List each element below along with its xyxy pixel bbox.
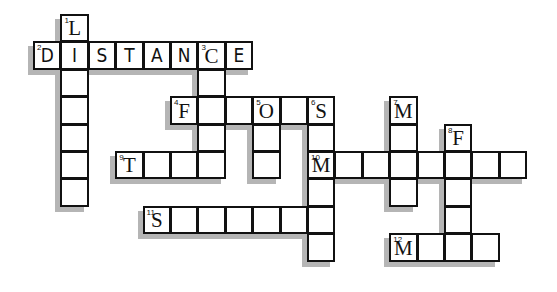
given-letter: T bbox=[117, 154, 141, 176]
given-letter: S bbox=[145, 209, 169, 231]
crossword-cell[interactable] bbox=[362, 151, 390, 179]
crossword-grid: 1LI2DSTAN3CE4F5O6S10M7M8F9T11S12M bbox=[0, 0, 557, 292]
crossword-cell[interactable] bbox=[499, 151, 527, 179]
handwritten-letter: S bbox=[90, 43, 114, 67]
crossword-cell[interactable]: S bbox=[88, 41, 116, 69]
given-letter: S bbox=[309, 100, 333, 122]
handwritten-letter: N bbox=[172, 43, 196, 67]
given-letter: M bbox=[391, 100, 415, 122]
handwritten-letter: I bbox=[62, 43, 86, 67]
given-letter: F bbox=[446, 127, 470, 149]
crossword-cell[interactable] bbox=[170, 206, 198, 234]
crossword-cell[interactable]: 9T bbox=[115, 151, 143, 179]
crossword-cell[interactable] bbox=[252, 124, 280, 152]
crossword-cell[interactable]: E bbox=[225, 41, 253, 69]
crossword-cell[interactable]: 10M bbox=[307, 151, 335, 179]
crossword-cell[interactable] bbox=[471, 233, 499, 261]
crossword-cell[interactable] bbox=[170, 151, 198, 179]
crossword-cell[interactable] bbox=[334, 151, 362, 179]
crossword-cell[interactable]: 8F bbox=[444, 124, 472, 152]
crossword-cell[interactable] bbox=[307, 178, 335, 206]
crossword-cell[interactable] bbox=[444, 233, 472, 261]
crossword-cell[interactable] bbox=[60, 124, 88, 152]
given-letter: O bbox=[254, 100, 278, 122]
crossword-cell[interactable]: 2D bbox=[33, 41, 61, 69]
handwritten-letter: D bbox=[35, 43, 59, 67]
crossword-cell[interactable] bbox=[444, 151, 472, 179]
crossword-cell[interactable]: N bbox=[170, 41, 198, 69]
crossword-cell[interactable] bbox=[389, 124, 417, 152]
crossword-cell[interactable] bbox=[225, 96, 253, 124]
crossword-cell[interactable] bbox=[197, 151, 225, 179]
handwritten-letter: E bbox=[227, 43, 251, 67]
crossword-cell[interactable]: 4F bbox=[170, 96, 198, 124]
crossword-cell[interactable] bbox=[143, 151, 171, 179]
crossword-cell[interactable]: 11S bbox=[143, 206, 171, 234]
given-letter: C bbox=[199, 45, 223, 67]
crossword-cell[interactable] bbox=[60, 69, 88, 97]
crossword-cell[interactable]: A bbox=[143, 41, 171, 69]
crossword-cell[interactable] bbox=[389, 178, 417, 206]
crossword-cell[interactable]: 12M bbox=[389, 233, 417, 261]
crossword-cell[interactable] bbox=[252, 151, 280, 179]
crossword-cell[interactable]: 7M bbox=[389, 96, 417, 124]
crossword-cell[interactable]: 6S bbox=[307, 96, 335, 124]
crossword-cell[interactable] bbox=[417, 151, 445, 179]
crossword-cell[interactable] bbox=[307, 124, 335, 152]
crossword-cell[interactable] bbox=[197, 206, 225, 234]
crossword-cell[interactable] bbox=[60, 151, 88, 179]
crossword-cell[interactable] bbox=[197, 69, 225, 97]
crossword-cell[interactable]: I bbox=[60, 41, 88, 69]
crossword-cell[interactable] bbox=[389, 151, 417, 179]
crossword-cell[interactable] bbox=[252, 206, 280, 234]
crossword-cell[interactable]: 3C bbox=[197, 41, 225, 69]
crossword-cell[interactable] bbox=[197, 124, 225, 152]
crossword-cell[interactable]: 5O bbox=[252, 96, 280, 124]
handwritten-letter: T bbox=[117, 43, 141, 67]
given-letter: M bbox=[391, 237, 415, 259]
handwritten-letter: A bbox=[145, 43, 169, 67]
given-letter: L bbox=[62, 17, 86, 39]
crossword-cell[interactable] bbox=[280, 96, 308, 124]
crossword-cell[interactable] bbox=[444, 206, 472, 234]
crossword-cell[interactable] bbox=[60, 178, 88, 206]
crossword-cell[interactable] bbox=[307, 233, 335, 261]
given-letter: M bbox=[309, 154, 333, 176]
crossword-cell[interactable]: T bbox=[115, 41, 143, 69]
crossword-cell[interactable] bbox=[444, 178, 472, 206]
crossword-cell[interactable] bbox=[307, 206, 335, 234]
crossword-cell[interactable] bbox=[417, 233, 445, 261]
crossword-cell[interactable] bbox=[225, 206, 253, 234]
crossword-cell[interactable] bbox=[280, 206, 308, 234]
crossword-cell[interactable]: 1L bbox=[60, 14, 88, 42]
crossword-cell[interactable] bbox=[60, 96, 88, 124]
given-letter: F bbox=[172, 100, 196, 122]
crossword-cell[interactable] bbox=[471, 151, 499, 179]
crossword-cell[interactable] bbox=[197, 96, 225, 124]
